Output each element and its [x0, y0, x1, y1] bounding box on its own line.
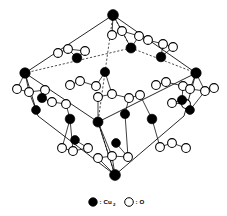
- oxygen-atom: [168, 99, 177, 108]
- legend-oxygen-marker-icon: [125, 198, 134, 207]
- oxygen-atom: [76, 77, 85, 86]
- legend-copper-label: Cu: [104, 198, 112, 205]
- crystal-structure-figure: : Cu 2 : O: [0, 0, 227, 216]
- legend-copper-subscript: 2: [113, 202, 116, 207]
- unit-cell-solid-edge: [38, 116, 115, 175]
- oxygen-atom: [169, 43, 178, 52]
- oxygen-atom: [152, 81, 161, 90]
- oxygen-atom: [162, 78, 171, 87]
- copper-atom: [93, 117, 103, 127]
- oxygen-atom: [118, 27, 127, 36]
- oxygen-atom: [69, 147, 78, 156]
- oxygen-atom: [156, 143, 165, 152]
- oxygen-atom: [58, 144, 67, 153]
- oxygen-atom: [182, 144, 191, 153]
- copper-atom: [65, 114, 75, 124]
- copper-atom: [112, 139, 121, 148]
- oxygen-atom: [136, 91, 145, 100]
- copper-atom: [100, 67, 109, 76]
- copper-atom: [156, 52, 166, 62]
- oxygen-atom: [124, 153, 133, 162]
- oxygen-atom: [66, 81, 75, 90]
- oxygen-atom: [168, 139, 177, 148]
- oxygen-atom: [25, 88, 34, 97]
- oxygen-atom: [144, 36, 153, 45]
- copper-atom: [177, 95, 186, 104]
- copper-atom: [110, 170, 121, 181]
- oxygen-atom: [186, 85, 195, 94]
- oxygen-atom: [62, 100, 71, 109]
- copper-atom: [191, 68, 201, 78]
- legend-oxygen-label: O: [140, 198, 145, 205]
- oxygen-atom: [159, 40, 168, 49]
- copper-atom: [108, 10, 119, 21]
- copper-atom: [120, 109, 129, 118]
- copper-atom: [126, 43, 136, 53]
- oxygen-atom: [94, 93, 103, 102]
- oxygen-atom: [201, 87, 210, 96]
- legend-oxygen-separator: :: [136, 198, 138, 205]
- oxygen-atom: [54, 49, 63, 58]
- copper-atom: [37, 93, 46, 102]
- copper-atom: [20, 68, 30, 78]
- oxygen-atom: [64, 45, 73, 54]
- copper-atom: [147, 114, 157, 124]
- legend-copper-separator: :: [100, 198, 102, 205]
- oxygen-atom: [108, 152, 117, 161]
- oxygen-atom: [94, 154, 103, 163]
- legend-copper-marker-icon: [89, 198, 98, 207]
- oxygen-atom: [210, 84, 219, 93]
- copper-atom: [186, 106, 195, 115]
- unit-cell-solid-edge: [25, 15, 113, 73]
- copper-atom: [72, 53, 82, 63]
- oxygen-atom: [92, 82, 101, 91]
- oxygen-atom: [84, 144, 93, 153]
- copper-atom: [71, 136, 80, 145]
- legend: : Cu 2 : O: [89, 198, 145, 207]
- oxygen-atom: [108, 90, 117, 99]
- oxygen-atom: [135, 32, 144, 41]
- oxygen-atom: [13, 85, 22, 94]
- bond-line: [125, 114, 128, 157]
- oxygen-atom: [125, 94, 134, 103]
- unit-cell-solid-edge: [98, 122, 115, 175]
- bond-line: [98, 122, 112, 156]
- unit-cell-solid-edge: [113, 15, 196, 73]
- oxygen-atom: [48, 98, 57, 107]
- crystal-structure-diagram: : Cu 2 : O: [0, 0, 227, 216]
- oxygen-atom: [108, 31, 117, 40]
- oxygen-atom: [81, 47, 90, 56]
- copper-atom: [32, 106, 41, 115]
